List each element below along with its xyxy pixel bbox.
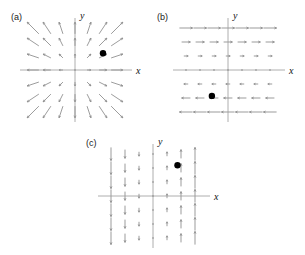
panel-b-x-axis-label: x bbox=[288, 65, 294, 76]
panel-a-y-axis-label: y bbox=[79, 10, 85, 21]
panel-c-y-axis-label: y bbox=[157, 136, 163, 147]
panel-a-x-axis-label: x bbox=[135, 65, 141, 76]
figure-background bbox=[0, 0, 305, 255]
vector-field-figure: (a) y x (b) y x (c) y x bbox=[0, 0, 305, 255]
panel-b-label: (b) bbox=[157, 12, 168, 22]
panel-c-marker-dot bbox=[174, 162, 180, 168]
panel-b-marker-dot bbox=[209, 93, 215, 99]
panel-c-x-axis-label: x bbox=[213, 191, 219, 202]
panel-c-label: (c) bbox=[86, 138, 97, 148]
panel-a-label: (a) bbox=[11, 12, 22, 22]
panel-a-marker-dot bbox=[100, 50, 106, 56]
panel-b-y-axis-label: y bbox=[232, 10, 238, 21]
